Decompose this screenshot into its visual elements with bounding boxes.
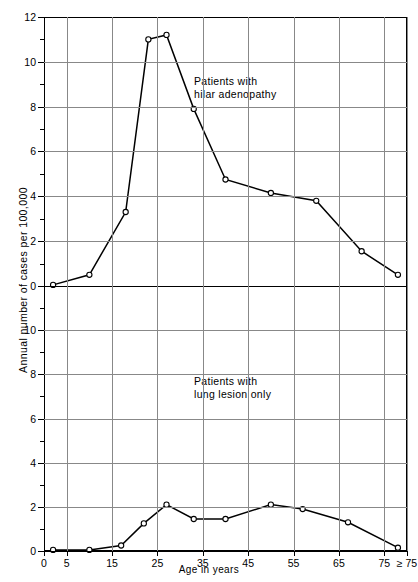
y-tick-minor	[40, 129, 44, 130]
data-point-marker	[146, 37, 151, 42]
y-tick-label: 2	[30, 501, 36, 513]
chart-figure: Annual number of cases per 100,000 Patie…	[0, 0, 418, 582]
y-tick-minor	[40, 308, 44, 309]
data-point-marker	[123, 209, 128, 214]
gridline-horizontal	[44, 330, 407, 331]
y-tick-major	[38, 419, 44, 420]
y-tick-label: 6	[30, 413, 36, 425]
y-tick-label: 4	[30, 190, 36, 202]
gridline-horizontal	[44, 241, 407, 242]
y-tick-major	[38, 17, 44, 18]
x-tick-mark	[157, 551, 158, 556]
gridline-horizontal	[44, 507, 407, 508]
y-tick-minor	[40, 441, 44, 442]
y-tick-label: 8	[30, 101, 36, 113]
x-tick-mark	[248, 551, 249, 556]
x-tick-mark	[112, 551, 113, 556]
y-tick-major	[38, 151, 44, 152]
x-axis-title: Age in years	[0, 564, 418, 575]
y-tick-minor	[40, 264, 44, 265]
y-tick-label: 10	[24, 324, 36, 336]
gridline-horizontal	[44, 374, 407, 375]
y-tick-minor	[40, 174, 44, 175]
data-point-marker	[87, 272, 92, 277]
data-line	[53, 505, 398, 550]
y-tick-minor	[40, 485, 44, 486]
x-tick-mark	[384, 551, 385, 556]
x-tick-mark	[407, 551, 408, 556]
chart-panel-hilar-adenopathy: Patients with hilar adenopathy 024681012	[44, 17, 407, 286]
y-tick-major	[38, 62, 44, 63]
y-tick-label: 4	[30, 457, 36, 469]
gridline-horizontal	[44, 196, 407, 197]
data-line	[53, 35, 398, 285]
data-point-marker	[164, 32, 169, 37]
data-point-marker	[223, 177, 228, 182]
zero-axis-line	[44, 551, 407, 552]
chart-panel-lung-lesion-only: Patients with lung lesion only 024681005…	[44, 286, 407, 551]
gridline-horizontal	[44, 463, 407, 464]
gridline-vertical	[407, 17, 408, 286]
data-point-marker	[359, 249, 364, 254]
gridline-horizontal	[44, 419, 407, 420]
x-tick-mark	[339, 551, 340, 556]
data-point-marker	[345, 520, 350, 525]
y-tick-label: 0	[30, 545, 36, 557]
data-point-marker	[395, 545, 400, 550]
gridline-horizontal	[44, 107, 407, 108]
y-tick-minor	[40, 39, 44, 40]
y-tick-major	[38, 330, 44, 331]
y-tick-major	[38, 241, 44, 242]
gridline-vertical	[407, 286, 408, 551]
x-tick-mark	[44, 551, 45, 556]
y-tick-label: 0	[30, 280, 36, 292]
x-tick-mark	[294, 551, 295, 556]
y-tick-label: 8	[30, 368, 36, 380]
data-point-marker	[395, 272, 400, 277]
data-point-marker	[268, 190, 273, 195]
y-tick-minor	[40, 352, 44, 353]
data-point-marker	[314, 198, 319, 203]
gridline-horizontal	[44, 151, 407, 152]
y-tick-major	[38, 107, 44, 108]
y-tick-major	[38, 196, 44, 197]
x-tick-mark	[67, 551, 68, 556]
y-tick-label: 12	[24, 11, 36, 23]
y-tick-label: 2	[30, 235, 36, 247]
y-tick-minor	[40, 396, 44, 397]
data-point-marker	[119, 543, 124, 548]
x-tick-mark	[203, 551, 204, 556]
data-point-marker	[141, 521, 146, 526]
y-tick-major	[38, 374, 44, 375]
y-tick-minor	[40, 84, 44, 85]
data-point-marker	[191, 516, 196, 521]
y-tick-major	[38, 463, 44, 464]
y-tick-major	[38, 507, 44, 508]
y-tick-label: 10	[24, 56, 36, 68]
y-axis-title: Annual number of cases per 100,000	[17, 140, 29, 420]
y-tick-label: 6	[30, 145, 36, 157]
y-tick-minor	[40, 219, 44, 220]
y-tick-minor	[40, 529, 44, 530]
gridline-horizontal	[44, 62, 407, 63]
data-point-marker	[223, 516, 228, 521]
